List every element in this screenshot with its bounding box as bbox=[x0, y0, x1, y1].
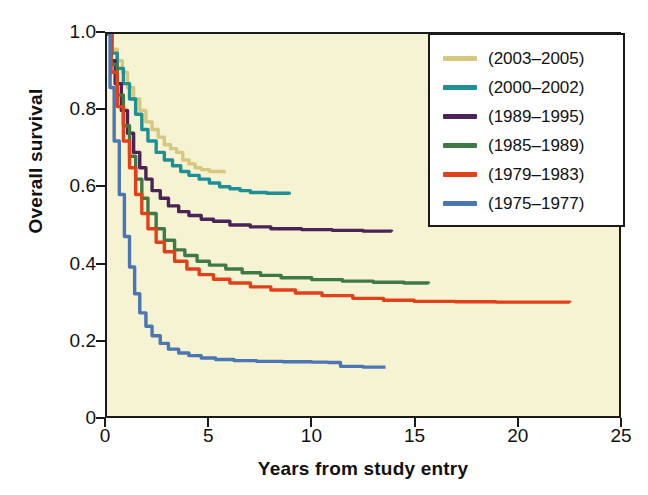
x-tick-mark bbox=[414, 418, 416, 427]
y-tick-label: 1.0 bbox=[50, 21, 96, 43]
legend-item-label: (1975–1977) bbox=[488, 194, 584, 214]
y-axis-tick-labels: 00.20.40.60.81.0 bbox=[0, 0, 96, 495]
x-tick-label: 5 bbox=[178, 425, 238, 447]
y-tick-mark bbox=[96, 31, 105, 33]
x-tick-label: 0 bbox=[75, 425, 135, 447]
y-tick-mark bbox=[96, 340, 105, 342]
legend-item[interactable]: (1975–1977) bbox=[430, 189, 623, 218]
legend-item-label: (1979–1983) bbox=[488, 165, 584, 185]
legend-item[interactable]: (2003–2005) bbox=[430, 44, 623, 73]
legend-color-swatch bbox=[443, 201, 477, 206]
survival-curve bbox=[107, 34, 429, 283]
survival-curve bbox=[107, 34, 392, 231]
y-tick-mark bbox=[96, 108, 105, 110]
legend-item[interactable]: (2000–2002) bbox=[430, 73, 623, 102]
x-tick-label: 15 bbox=[385, 425, 445, 447]
x-tick-mark bbox=[620, 418, 622, 427]
survival-chart-figure: Overall survival 00.20.40.60.81.0 051015… bbox=[0, 0, 648, 495]
legend-item[interactable]: (1985–1989) bbox=[430, 131, 623, 160]
y-tick-mark bbox=[96, 263, 105, 265]
legend-item-label: (1985–1989) bbox=[488, 136, 584, 156]
x-tick-label: 25 bbox=[591, 425, 648, 447]
legend-item-label: (1989–1995) bbox=[488, 107, 584, 127]
legend-color-swatch bbox=[443, 114, 477, 119]
x-tick-label: 10 bbox=[281, 425, 341, 447]
legend-item[interactable]: (1989–1995) bbox=[430, 102, 623, 131]
legend-color-swatch bbox=[443, 172, 477, 177]
legend-item-label: (2003–2005) bbox=[488, 49, 584, 69]
legend-box: (2003–2005)(2000–2002)(1989–1995)(1985–1… bbox=[428, 33, 625, 227]
legend-color-swatch bbox=[443, 143, 477, 148]
y-tick-mark bbox=[96, 185, 105, 187]
y-tick-label: 0.8 bbox=[50, 98, 96, 120]
x-tick-label: 20 bbox=[488, 425, 548, 447]
x-axis-title: Years from study entry bbox=[105, 458, 621, 480]
x-tick-mark bbox=[310, 418, 312, 427]
legend-item[interactable]: (1979–1983) bbox=[430, 160, 623, 189]
legend-color-swatch bbox=[443, 56, 477, 61]
y-tick-label: 0.2 bbox=[50, 330, 96, 352]
legend-color-swatch bbox=[443, 85, 477, 90]
x-tick-mark bbox=[517, 418, 519, 427]
x-tick-mark bbox=[207, 418, 209, 427]
y-tick-label: 0.4 bbox=[50, 253, 96, 275]
y-tick-label: 0.6 bbox=[50, 175, 96, 197]
legend-item-label: (2000–2002) bbox=[488, 78, 584, 98]
x-tick-mark bbox=[104, 418, 106, 427]
